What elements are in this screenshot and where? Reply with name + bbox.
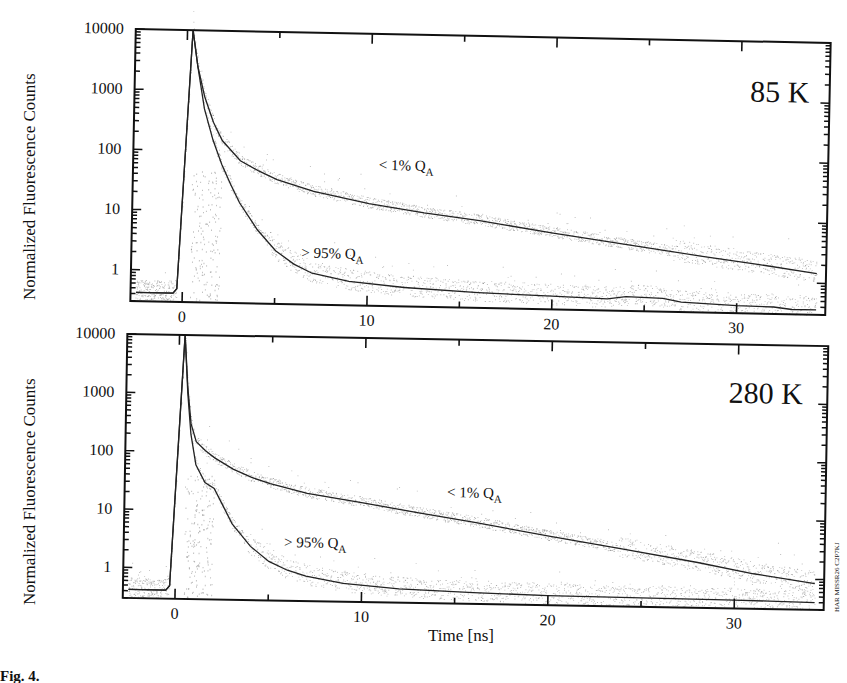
figure: 110100100010000010203085 K< 1% QA> 95% Q… (0, 0, 847, 683)
y-tick-label: 1000 (90, 79, 122, 97)
series-line-low-qa (136, 29, 821, 306)
series-annotation: < 1% QA (379, 157, 434, 178)
temperature-label: 85 K (750, 75, 810, 109)
y-tick-label: 1 (103, 558, 111, 575)
series-annotation: < 1% QA (447, 484, 502, 505)
y-tick-label: 100 (97, 140, 121, 157)
y-tick-label: 1000 (82, 382, 114, 400)
series-annotation: > 95% QA (284, 534, 347, 555)
series-annotation: > 95% QA (301, 245, 364, 266)
x-tick-label: 30 (728, 319, 744, 336)
y-tick-label: 10000 (75, 324, 115, 342)
y-tick-label: 10 (104, 200, 120, 217)
x-tick-label: 30 (726, 614, 742, 631)
x-tick-label: 0 (171, 605, 179, 622)
y-tick-label: 10 (96, 499, 112, 516)
x-tick-label: 20 (543, 315, 559, 332)
x-tick-label: 10 (358, 312, 374, 329)
panel-85k: 110100100010000010203085 K< 1% QA> 95% Q… (78, 9, 831, 338)
figure-caption: Fig. 4. (0, 668, 40, 683)
series-line-low-qa (128, 334, 818, 601)
plots-svg: 110100100010000010203085 K< 1% QA> 95% Q… (0, 0, 847, 683)
watermark-code: HAR MISSR26 C2P7KJ (833, 542, 841, 612)
temperature-label: 280 K (728, 376, 803, 410)
y-tick-label: 10000 (84, 19, 124, 37)
panel-280k: 1101001000100000102030280 K< 1% QA> 95% … (70, 324, 828, 633)
series-line-high-qa (136, 29, 822, 310)
x-tick-label: 20 (539, 611, 555, 628)
y-axis-label-bottom: Normalized Fluorescence Counts (20, 378, 40, 605)
y-tick-label: 1 (111, 260, 119, 277)
y-tick-label: 100 (89, 441, 113, 458)
x-tick-label: 0 (178, 308, 186, 325)
x-tick-label: 10 (353, 608, 369, 625)
y-axis-label-top: Normalized Fluorescence Counts (20, 73, 40, 300)
x-axis-label: Time [ns] (428, 626, 494, 646)
